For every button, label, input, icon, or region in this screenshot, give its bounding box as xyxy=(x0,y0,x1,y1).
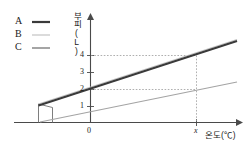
y-axis-title: 부피(L) xyxy=(72,12,81,55)
y-tick-label-4: 4 xyxy=(80,50,84,59)
y-tick-label-3: 3 xyxy=(80,67,84,76)
series-line-a xyxy=(39,41,238,106)
legend-label-c: C xyxy=(15,41,22,52)
x-axis-origin-label: 0 xyxy=(87,126,91,135)
series-line-b xyxy=(39,40,238,105)
x-axis-arrowhead xyxy=(236,119,243,126)
y-axis-arrowhead xyxy=(87,13,94,20)
series-line-c xyxy=(40,82,237,122)
legend-label-b: B xyxy=(15,28,22,39)
x-axis-marker-label: x xyxy=(194,126,198,135)
legend-label-a: A xyxy=(15,15,22,26)
y-tick-label-1: 1 xyxy=(80,101,84,110)
y-tick-label-2: 2 xyxy=(80,84,84,93)
chart-canvas xyxy=(0,0,248,145)
chart-figure: A B C 부피(L) 4 3 2 1 0 x 온도(℃) xyxy=(0,0,248,145)
x-axis-title: 온도(℃) xyxy=(205,128,236,140)
